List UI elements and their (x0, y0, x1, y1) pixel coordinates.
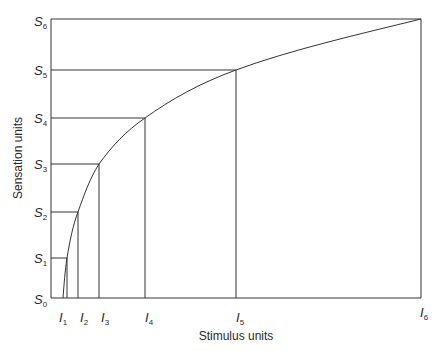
y-label-s2: S2 (34, 205, 48, 222)
x-label-i6: I6 (420, 305, 429, 322)
y-label-s4: S4 (34, 111, 48, 128)
x-label-i3: I3 (101, 310, 110, 327)
x-axis-title: Stimulus units (199, 329, 274, 343)
y-label-s1: S1 (34, 251, 48, 268)
log-curve (63, 19, 421, 298)
y-label-s3: S3 (34, 157, 48, 174)
y-label-s5: S5 (34, 63, 48, 80)
y-axis-title: Sensation units (11, 117, 25, 199)
x-label-i4: I4 (145, 310, 154, 327)
y-label-s0: S0 (34, 292, 48, 309)
x-label-i1: I1 (59, 310, 68, 327)
y-label-s6: S6 (34, 14, 48, 31)
sensation-stimulus-diagram: S0 S1 S2 S3 S4 S5 S6 I1 I2 I3 I4 I5 I6 S… (0, 0, 446, 351)
x-label-i5: I5 (236, 310, 245, 327)
x-tick-labels: I1 I2 I3 I4 I5 I6 (59, 305, 429, 327)
y-tick-labels: S0 S1 S2 S3 S4 S5 S6 (34, 14, 48, 309)
x-label-i2: I2 (80, 310, 89, 327)
